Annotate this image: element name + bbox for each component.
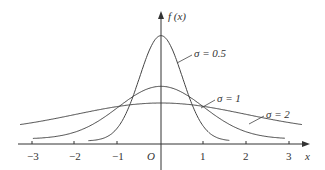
- x-axis-arrow-icon: [302, 141, 310, 147]
- label-sigma-1: σ = 1: [217, 92, 241, 104]
- tick-label: −3: [27, 150, 39, 162]
- y-axis-label: f (x): [168, 10, 186, 23]
- leader-sigma-0-5: [177, 55, 192, 63]
- tick-label: 2: [243, 150, 249, 162]
- label-sigma-2: σ = 2: [266, 108, 290, 120]
- tick-label: −1: [112, 150, 124, 162]
- origin-label: O: [147, 150, 155, 162]
- tick-label: −2: [69, 150, 81, 162]
- curve-sigma-1: [33, 86, 285, 138]
- normal-distribution-chart: f (x) x O −3 −2 −1 1 2 3 σ = 0.5 σ = 1 σ…: [0, 0, 325, 170]
- y-axis-arrow-icon: [158, 11, 164, 19]
- label-sigma-0-5: σ = 0.5: [194, 47, 227, 59]
- leader-sigma-2: [249, 116, 264, 124]
- x-axis-label: x: [304, 150, 310, 162]
- tick-label: 3: [286, 150, 292, 162]
- tick-label: 1: [200, 150, 206, 162]
